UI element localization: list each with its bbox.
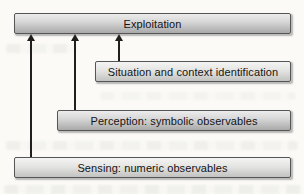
arrow-perception-to-exploitation-icon xyxy=(70,34,79,111)
sensing-box-label: Sensing: numeric observables xyxy=(77,162,227,174)
arrow-shaft xyxy=(118,40,120,62)
arrow-shaft xyxy=(74,40,76,111)
layered-architecture-diagram: Exploitation Situation and context ident… xyxy=(0,0,304,194)
situation-box-label: Situation and context identification xyxy=(108,66,279,78)
scan-bleed-artifact xyxy=(100,92,296,100)
sensing-numeric-observables-box: Sensing: numeric observables xyxy=(14,157,291,178)
exploitation-box-label: Exploitation xyxy=(123,18,181,30)
scan-bleed-artifact xyxy=(6,44,76,53)
perception-box-label: Perception: symbolic observables xyxy=(90,115,257,127)
arrow-sensing-to-exploitation-icon xyxy=(26,34,35,158)
perception-symbolic-observables-box: Perception: symbolic observables xyxy=(57,110,291,131)
scan-bleed-artifact xyxy=(4,185,302,194)
arrow-shaft xyxy=(30,40,32,158)
arrow-situation-to-exploitation-icon xyxy=(114,34,123,62)
exploitation-box: Exploitation xyxy=(14,13,291,34)
situation-context-identification-box: Situation and context identification xyxy=(95,61,291,82)
scan-bleed-artifact xyxy=(6,141,298,150)
